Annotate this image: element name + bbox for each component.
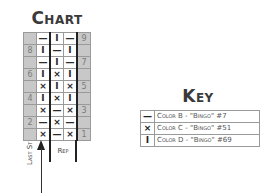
stitch-cell: — bbox=[50, 45, 64, 57]
row-number-right: 9 bbox=[77, 33, 91, 45]
key-row: ×Color C - "Bingo" #51 bbox=[141, 123, 260, 135]
stitch-cell: I bbox=[50, 33, 64, 45]
stitch-cell: — bbox=[37, 33, 51, 45]
chart-row: 2—×— bbox=[24, 117, 91, 129]
stitch-cell: × bbox=[37, 105, 51, 117]
stitch-cell: — bbox=[50, 105, 64, 117]
stitch-cell: I bbox=[50, 81, 64, 93]
chart-row: ×—×1 bbox=[24, 129, 91, 141]
row-number-left: 2 bbox=[24, 117, 37, 129]
key-symbol-icon: — bbox=[141, 111, 155, 123]
stitch-cell: I bbox=[64, 45, 78, 57]
key-row: IColor D - "Bingo" #69 bbox=[141, 135, 260, 147]
chart-row: ×I×5 bbox=[24, 81, 91, 93]
row-number-right: 3 bbox=[77, 105, 91, 117]
stitch-cell: × bbox=[50, 93, 64, 105]
row-number-left bbox=[24, 33, 37, 45]
stitch-chart-grid: —I—98I—I—I—76I×I×I×54I×I×—×32—×—×—×1 bbox=[23, 32, 91, 141]
last-st-label: Last St bbox=[26, 142, 34, 165]
stitch-cell: × bbox=[50, 117, 64, 129]
chart-row: 6I×I bbox=[24, 69, 91, 81]
key-label: Color C - "Bingo" #51 bbox=[155, 123, 260, 135]
key-symbol-icon: I bbox=[141, 135, 155, 147]
row-number-right bbox=[77, 93, 91, 105]
stitch-cell: × bbox=[64, 105, 78, 117]
rep-bracket-left bbox=[49, 140, 51, 162]
chart-row: —I—7 bbox=[24, 57, 91, 69]
stitch-cell: × bbox=[64, 81, 78, 93]
chart-title: Chart bbox=[24, 8, 90, 28]
chart-row: 8I—I bbox=[24, 45, 91, 57]
stitch-cell: I bbox=[37, 93, 51, 105]
row-number-right bbox=[77, 45, 91, 57]
chart-row: 4I×I bbox=[24, 93, 91, 105]
stitch-cell: — bbox=[37, 57, 51, 69]
stitch-cell: I bbox=[64, 69, 78, 81]
row-number-right: 1 bbox=[77, 129, 91, 141]
stitch-cell: — bbox=[37, 117, 51, 129]
stitch-cell: × bbox=[37, 129, 51, 141]
stitch-cell: — bbox=[64, 33, 78, 45]
row-number-right bbox=[77, 69, 91, 81]
row-number-right: 5 bbox=[77, 81, 91, 93]
key-title: Key bbox=[140, 86, 256, 106]
row-number-right bbox=[77, 117, 91, 129]
stitch-cell: I bbox=[64, 93, 78, 105]
chart-row: ×—×3 bbox=[24, 105, 91, 117]
stitch-cell: I bbox=[37, 45, 51, 57]
stitch-cell: — bbox=[64, 57, 78, 69]
row-number-left bbox=[24, 57, 37, 69]
row-number-left: 6 bbox=[24, 69, 37, 81]
row-number-left: 4 bbox=[24, 93, 37, 105]
stitch-cell: × bbox=[37, 81, 51, 93]
stitch-cell: × bbox=[50, 69, 64, 81]
row-number-right: 7 bbox=[77, 57, 91, 69]
row-number-left bbox=[24, 81, 37, 93]
key-table: —Color B - "Bingo" #7×Color C - "Bingo" … bbox=[140, 110, 260, 147]
stitch-cell: — bbox=[50, 129, 64, 141]
key-symbol-icon: × bbox=[141, 123, 155, 135]
stitch-cell: × bbox=[64, 129, 78, 141]
arrow-shaft bbox=[41, 148, 42, 193]
key-row: —Color B - "Bingo" #7 bbox=[141, 111, 260, 123]
stitch-cell: I bbox=[37, 69, 51, 81]
rep-bracket-right bbox=[75, 140, 77, 162]
row-number-left bbox=[24, 105, 37, 117]
rep-label: Rep bbox=[52, 147, 74, 155]
stitch-cell: I bbox=[50, 57, 64, 69]
row-number-left bbox=[24, 129, 37, 141]
key-label: Color D - "Bingo" #69 bbox=[155, 135, 260, 147]
key-label: Color B - "Bingo" #7 bbox=[155, 111, 260, 123]
chart-row: —I—9 bbox=[24, 33, 91, 45]
row-number-left: 8 bbox=[24, 45, 37, 57]
stitch-cell: — bbox=[64, 117, 78, 129]
